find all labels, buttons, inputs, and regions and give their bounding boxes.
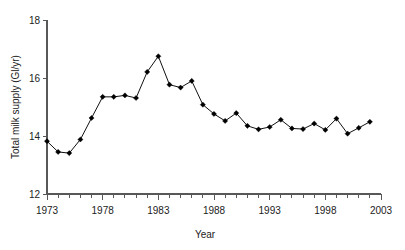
y-tick-label: 16: [29, 73, 41, 84]
y-tick-label: 14: [29, 131, 41, 142]
y-tick-label: 12: [29, 189, 41, 200]
x-tick-label: 1988: [203, 205, 226, 216]
data-point: [300, 126, 305, 131]
data-point: [312, 121, 317, 126]
data-point: [122, 93, 127, 98]
line-chart: 12141618 1973197819831988199319982003 To…: [0, 0, 405, 250]
data-point: [111, 94, 116, 99]
data-point: [178, 85, 183, 90]
data-point: [367, 119, 372, 124]
data-point: [100, 94, 105, 99]
x-tick-label: 1998: [314, 205, 337, 216]
x-tick-label: 1983: [147, 205, 170, 216]
chart-figure: 12141618 1973197819831988199319982003 To…: [0, 0, 405, 250]
data-point: [189, 78, 194, 83]
data-point: [133, 95, 138, 100]
x-axis-tick-labels: 1973197819831988199319982003: [36, 205, 393, 216]
data-series-markers: [44, 54, 372, 156]
y-axis-tick-labels: 12141618: [29, 15, 41, 200]
x-tick-label: 1973: [36, 205, 59, 216]
data-point: [267, 124, 272, 129]
data-point: [356, 125, 361, 130]
data-series-line: [47, 56, 370, 153]
x-tick-label: 1978: [92, 205, 115, 216]
x-tick-label: 2003: [370, 205, 393, 216]
y-axis-title: Total milk supply (Gl/yr): [10, 55, 21, 159]
data-point: [89, 115, 94, 120]
y-tick-label: 18: [29, 15, 41, 26]
data-point: [256, 127, 261, 132]
axis-tick-marks: [43, 20, 381, 200]
x-axis-title: Year: [195, 229, 216, 240]
data-point: [167, 82, 172, 87]
x-tick-label: 1993: [259, 205, 282, 216]
